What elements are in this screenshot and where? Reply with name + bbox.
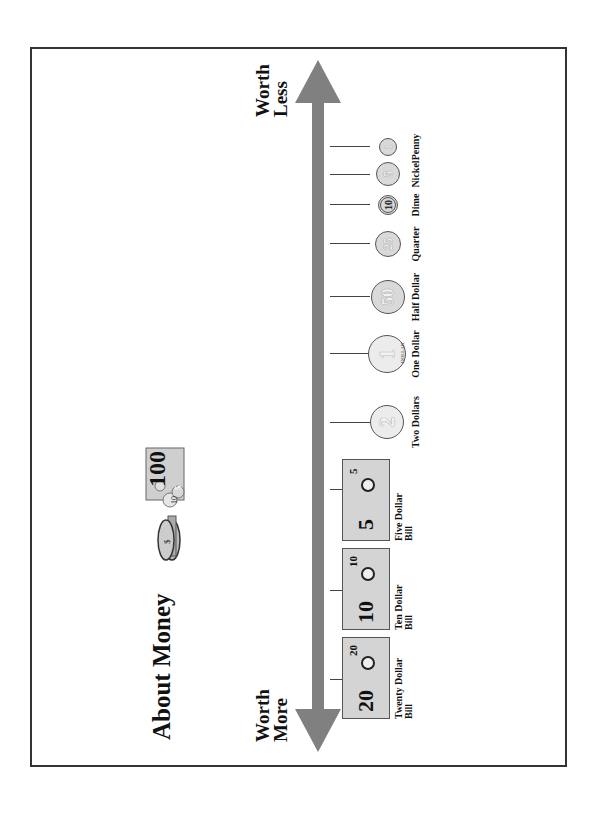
bill-five: 5 5 (342, 459, 390, 541)
bill-twenty: 20 20 (342, 637, 390, 719)
coin-dime: 10 (378, 195, 398, 215)
bill-corner-value: 5 (347, 469, 359, 475)
page-title: About Money (148, 593, 176, 740)
coin-one-dollar-label: One Dollar (410, 324, 421, 384)
coin-two-dollars: 2 (370, 405, 404, 439)
clipart-coin-b: 5 (173, 486, 183, 491)
tick-penny (330, 146, 370, 147)
clipart-bill-value: 100 (144, 451, 171, 487)
coin-one-dollar-rim: DOLLAR (400, 343, 405, 363)
coin-half-dollar: 50 (371, 280, 405, 314)
portrait-icon (361, 654, 377, 672)
bill-ten: 10 10 (342, 548, 390, 630)
bill-twenty-label: Twenty Dollar Bill (394, 658, 414, 719)
tick-two (330, 422, 370, 423)
clipart-coin-a: 10 (170, 496, 179, 504)
tick-dime (330, 204, 370, 205)
portrait-icon (361, 476, 377, 494)
coin-penny: 1 (379, 138, 397, 156)
coin-penny-label: Penny (410, 132, 421, 162)
tick-quarter (330, 243, 370, 244)
bill-corner-value: 10 (347, 556, 359, 567)
tick-nickel (330, 174, 370, 175)
coin-two-dollars-label: Two Dollars (410, 390, 421, 454)
coin-nickel: 5 (376, 162, 400, 186)
tick-half (330, 296, 370, 297)
svg-text:$: $ (162, 539, 172, 544)
bill-value: 10 (353, 601, 379, 623)
coin-dime-label: Dime (410, 190, 421, 220)
bill-corner-value: 20 (347, 645, 359, 656)
bill-label-line2: Bill (404, 658, 414, 719)
bill-value: 20 (353, 690, 379, 712)
diagram-stage: About Money $ 100 10 5 Worth More Worth … (30, 47, 567, 767)
portrait-icon (361, 565, 377, 583)
coin-quarter-label: Quarter (410, 224, 421, 264)
coin-quarter: 25 (375, 231, 401, 257)
coin-half-dollar-label: Half Dollar (410, 267, 421, 327)
bill-label-line2: Bill (404, 493, 414, 541)
bill-label-line2: Bill (404, 585, 414, 630)
bill-value: 5 (353, 519, 379, 530)
bill-five-label: Five Dollar Bill (394, 493, 414, 541)
bill-ten-label: Ten Dollar Bill (394, 585, 414, 630)
tick-one (330, 353, 370, 354)
coin-nickel-label: Nickel (410, 159, 421, 189)
